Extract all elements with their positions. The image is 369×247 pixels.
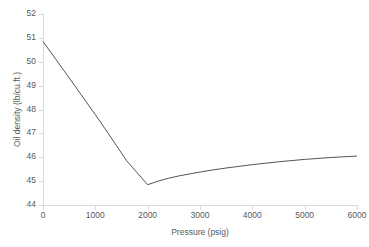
plot-series-layer: [0, 0, 369, 247]
oil-density-vs-pressure-chart: 444546474849505152 010002000300040005000…: [0, 0, 369, 247]
oil-density-line: [43, 41, 357, 184]
